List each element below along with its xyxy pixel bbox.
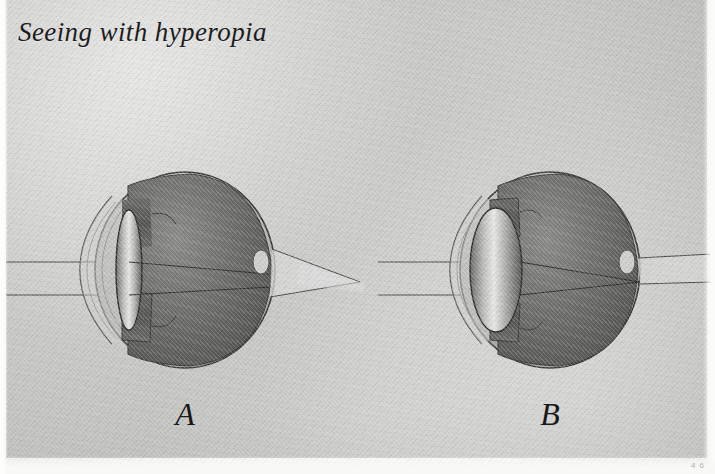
lens-b bbox=[470, 208, 522, 332]
optic-disc-b bbox=[619, 250, 635, 274]
scan-edge-right bbox=[703, 0, 715, 474]
focus-beam-b bbox=[638, 254, 712, 284]
page-corner-mark: 4 6 bbox=[691, 461, 705, 470]
scan-edge-bottom bbox=[0, 456, 715, 474]
figure-hyperopia: Seeing with hyperopia A B 4 6 bbox=[0, 0, 715, 474]
panel-label-b: B bbox=[520, 396, 580, 433]
figure-title: Seeing with hyperopia bbox=[18, 17, 267, 48]
eye-diagram-b bbox=[0, 0, 715, 474]
scan-edge-left bbox=[0, 0, 8, 474]
panel-label-a: A bbox=[155, 396, 215, 433]
